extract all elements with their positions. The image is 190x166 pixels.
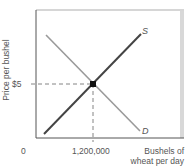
quantity-tick-label: 1,200,000 (72, 146, 110, 156)
plot-right-shadow (180, 10, 184, 138)
price-tick-label: $5 (12, 79, 21, 89)
y-axis-label: Price per bushel (1, 34, 11, 106)
origin-label: 0 (21, 146, 26, 156)
demand-curve-label: D (142, 126, 149, 136)
x-axis-label-line1: Bushels of (144, 146, 184, 156)
x-axis-label-line2: wheat per day (131, 156, 184, 166)
equilibrium-point (90, 81, 96, 87)
supply-curve-label: S (142, 26, 148, 36)
chart-canvas (0, 0, 190, 166)
